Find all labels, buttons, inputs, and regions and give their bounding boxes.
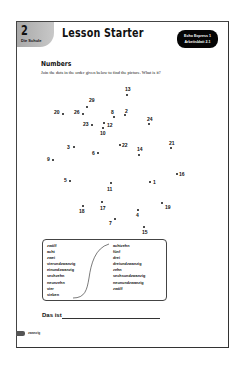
- dot-label: 24: [147, 117, 153, 122]
- dot-label: 26: [74, 110, 80, 115]
- unit-tab: 2 Die Schule: [17, 22, 54, 47]
- dot-label: 14: [137, 147, 143, 152]
- dot-point: [114, 218, 116, 220]
- dot-point: [110, 182, 112, 184]
- dot-label: 23: [83, 122, 89, 127]
- dot-label: 21: [169, 141, 175, 146]
- dot-point: [91, 124, 93, 126]
- dot-label: 11: [107, 187, 112, 192]
- dot-point: [119, 144, 121, 146]
- dot-label: 7: [109, 221, 112, 226]
- answer-label: Das ist: [42, 312, 62, 318]
- dot-label: 5: [64, 178, 67, 183]
- dot-point: [124, 114, 126, 116]
- section-heading: Numbers: [41, 60, 71, 68]
- dot-point: [69, 180, 71, 182]
- answer-line[interactable]: [62, 318, 160, 319]
- dot-point: [102, 127, 104, 129]
- instruction-text: Join the dots in the order given below t…: [41, 70, 161, 75]
- dot-label: 15: [142, 230, 148, 235]
- dot-label: 29: [89, 98, 95, 103]
- word-column-right: achtzehn fünf drei dreiundzwanzig zehn s…: [113, 243, 145, 292]
- dot-point: [176, 173, 178, 175]
- dot-point: [170, 147, 172, 149]
- word-column-left: zwölf acht zwei vierundzwanzig einundzwa…: [47, 243, 75, 298]
- dot-label: 3: [67, 145, 70, 150]
- dot-label: 9: [47, 157, 50, 162]
- page-title: Lesson Starter: [62, 26, 144, 40]
- dot-label: 16: [179, 172, 185, 177]
- dot-point: [86, 106, 88, 108]
- word-item: zwölf: [113, 286, 145, 292]
- word-item: neunundzwanzig: [113, 280, 145, 286]
- dot-point: [137, 209, 139, 211]
- dot-label: 19: [165, 205, 171, 210]
- dot-point: [103, 122, 105, 124]
- dot-label: 2: [125, 109, 128, 114]
- badge-line-2: Arbeitsblatt 2.1: [177, 39, 218, 45]
- unit-subtitle: Die Schule: [21, 38, 41, 43]
- dot-point: [82, 205, 84, 207]
- dot-label: 1: [153, 180, 156, 185]
- dot-label: 20: [54, 110, 60, 115]
- dot-label: 8: [111, 110, 114, 115]
- word-item: sechsundzwanzig: [113, 273, 145, 279]
- dot-label: 6: [92, 151, 95, 156]
- dot-label: 10: [100, 131, 106, 136]
- dot-point: [73, 146, 75, 148]
- dot-label: 12: [107, 123, 113, 128]
- page-number-tab: [16, 331, 25, 336]
- number-word-box: zwölf acht zwei vierundzwanzig einundzwa…: [42, 239, 167, 301]
- dot-label: 22: [122, 143, 128, 148]
- dot-point: [149, 181, 151, 183]
- dot-point: [113, 116, 115, 118]
- dot-point: [138, 154, 140, 156]
- dot-point: [148, 123, 150, 125]
- dot-point: [143, 226, 145, 228]
- page-number-text: zwanzig: [28, 331, 40, 335]
- dot-point: [62, 113, 64, 115]
- dot-point: [101, 201, 103, 203]
- worksheet-badge: Echo Express 1 Arbeitsblatt 2.1: [177, 30, 218, 48]
- unit-number: 2: [21, 22, 28, 38]
- dot-label: 4: [136, 213, 139, 218]
- dot-label: 13: [125, 87, 131, 92]
- dot-point: [82, 113, 84, 115]
- word-item: sieben: [47, 292, 75, 298]
- dot-point: [97, 152, 99, 154]
- dot-point: [126, 94, 128, 96]
- dot-label: 18: [79, 209, 85, 214]
- dot-label: 17: [100, 206, 106, 211]
- dot-point: [161, 202, 163, 204]
- dot-point: [52, 159, 54, 161]
- worksheet-page: 2 Die Schule Lesson Starter Echo Express…: [16, 21, 229, 348]
